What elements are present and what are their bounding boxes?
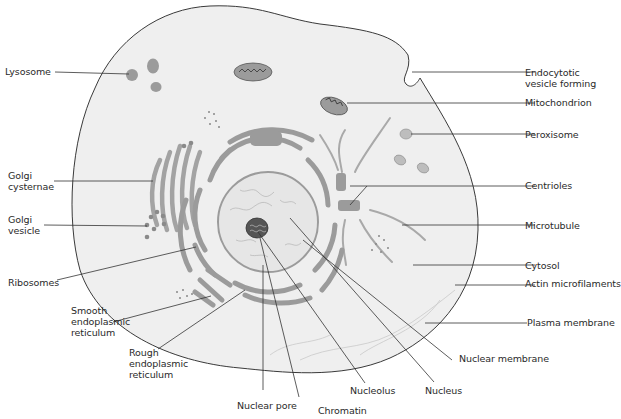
- label-rough-er: Rough endoplasmic reticulum: [129, 347, 188, 380]
- label-smooth-er: Smooth endoplasmic reticulum: [71, 305, 130, 338]
- nucleolus: [246, 218, 268, 238]
- label-microtubule: Microtubule: [525, 220, 580, 231]
- label-chromatin: Chromatin: [318, 405, 367, 416]
- label-actin-microfilaments: Actin microfilaments: [525, 278, 621, 289]
- label-golgi-cisternae: Golgi cysternae: [8, 170, 54, 192]
- label-golgi-vesicle: Golgi vesicle: [8, 214, 40, 236]
- label-nuclear-pore: Nuclear pore: [237, 400, 297, 411]
- label-endocytotic-vesicle: Endocytotic vesicle forming: [525, 67, 596, 89]
- label-nucleus: Nucleus: [425, 385, 462, 396]
- label-nucleolus: Nucleolus: [350, 385, 395, 396]
- label-plasma-membrane: Plasma membrane: [527, 317, 615, 328]
- label-mitochondrion: Mitochondrion: [525, 97, 592, 108]
- label-centrioles: Centrioles: [525, 180, 572, 191]
- label-ribosomes: Ribosomes: [8, 277, 59, 288]
- label-peroxisome: Peroxisome: [525, 129, 579, 140]
- label-nuclear-membrane: Nuclear membrane: [459, 353, 549, 364]
- golgi-body-top: [250, 131, 282, 146]
- label-lysosome: Lysosome: [5, 66, 51, 77]
- mitochondrion-top: [234, 63, 272, 81]
- label-cytosol: Cytosol: [525, 260, 560, 271]
